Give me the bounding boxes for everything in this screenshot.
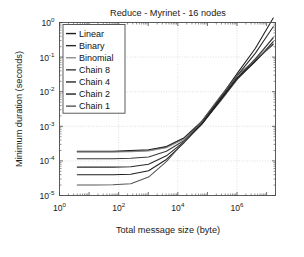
legend-label-chain-1[interactable]: Chain 1 bbox=[79, 101, 110, 111]
legend-label-linear[interactable]: Linear bbox=[79, 29, 104, 39]
legend-label-chain-2[interactable]: Chain 2 bbox=[79, 89, 110, 99]
chart-svg: Reduce - Myrinet - 16 nodes 100102104106… bbox=[0, 0, 304, 257]
legend-label-chain-8[interactable]: Chain 8 bbox=[79, 65, 110, 75]
legend-label-binomial[interactable]: Binomial bbox=[79, 53, 114, 63]
chart-title: Reduce - Myrinet - 16 nodes bbox=[110, 8, 226, 18]
chart-figure: Reduce - Myrinet - 16 nodes 100102104106… bbox=[0, 0, 304, 257]
y-axis-label: Minimum duration (seconds) bbox=[14, 51, 24, 167]
chart-legend[interactable]: LinearBinaryBinomialChain 8Chain 4Chain … bbox=[63, 25, 125, 114]
legend-label-binary[interactable]: Binary bbox=[79, 41, 105, 51]
x-axis-label: Total message size (byte) bbox=[116, 225, 220, 235]
legend-label-chain-4[interactable]: Chain 4 bbox=[79, 77, 110, 87]
